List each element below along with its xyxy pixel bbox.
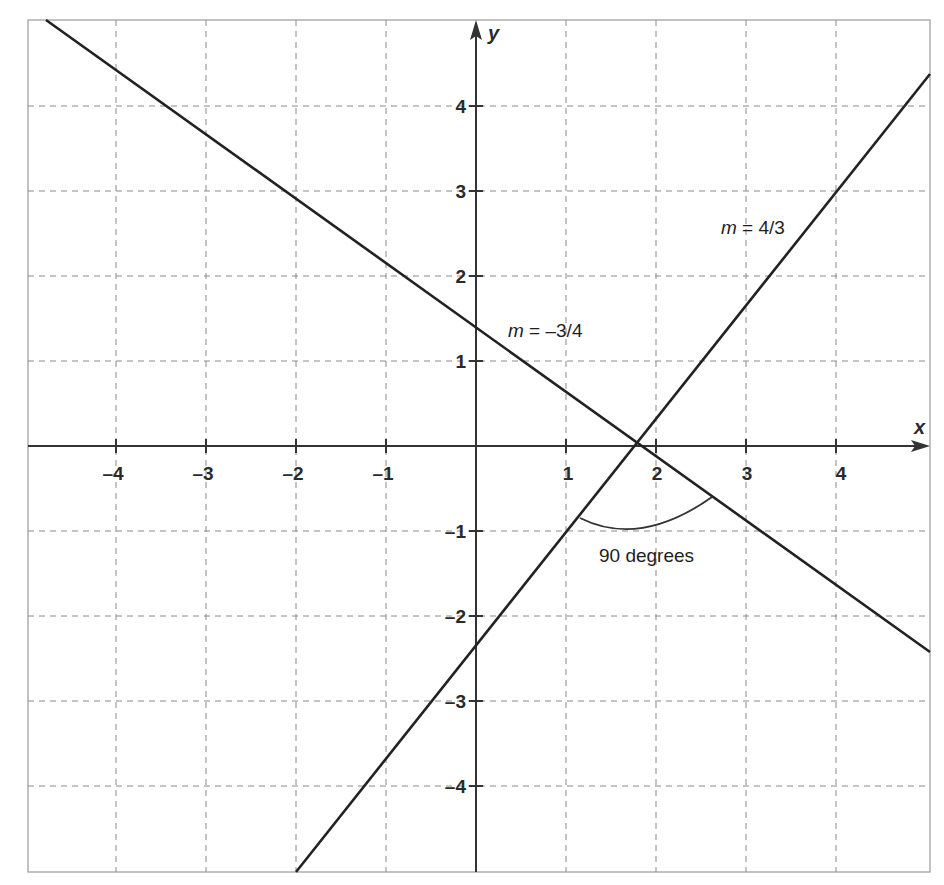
slope-label-pos: m = 4/3 <box>721 217 785 238</box>
y-tick-label: –3 <box>445 691 466 712</box>
x-tick-label: 4 <box>836 463 847 484</box>
slope-label-neg: m = –3/4 <box>508 320 583 341</box>
x-tick-label: –3 <box>192 463 213 484</box>
line-slope-neg-3-4 <box>46 20 930 652</box>
x-tick-label: –1 <box>372 463 394 484</box>
x-tick-label: 2 <box>652 463 663 484</box>
x-axis: x –4 –3 –2 –1 1 2 3 4 <box>28 416 930 484</box>
y-tick-label: –2 <box>445 606 466 627</box>
y-tick-label: –1 <box>445 521 467 542</box>
angle-label: 90 degrees <box>599 545 694 566</box>
x-tick-label: –2 <box>282 463 303 484</box>
y-axis-name: y <box>487 22 500 44</box>
y-tick-label: 3 <box>455 181 466 202</box>
right-angle-arc <box>580 497 712 529</box>
slope-chart: x –4 –3 –2 –1 1 2 3 4 y 4 3 2 <box>0 0 944 885</box>
x-tick-label: –4 <box>102 463 124 484</box>
x-axis-name: x <box>913 416 926 438</box>
y-tick-label: –4 <box>445 776 467 797</box>
x-tick-label: 1 <box>563 463 574 484</box>
y-tick-label: 4 <box>455 96 466 117</box>
y-tick-label: 2 <box>455 266 466 287</box>
y-tick-label: 1 <box>455 351 466 372</box>
x-tick-label: 3 <box>742 463 753 484</box>
